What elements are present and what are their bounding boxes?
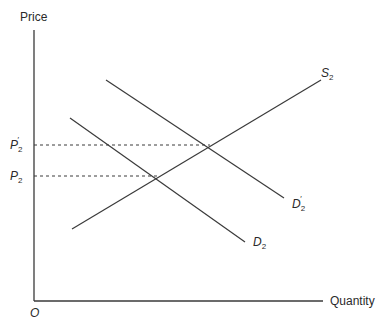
demand-curve-d2 <box>70 118 245 242</box>
curve-label-d2-prime: D2′ <box>292 194 306 213</box>
price-label-p2: P2 <box>10 169 23 185</box>
x-axis-label: Quantity <box>330 294 375 308</box>
supply-curve-s2 <box>72 80 321 229</box>
demand-curve-d2-prime <box>106 80 284 198</box>
origin-label: O <box>30 306 39 320</box>
supply-demand-diagram: Price Quantity O P2′ P2 S2 D2′ D2 <box>0 0 382 330</box>
price-label-p2-prime: P2′ <box>10 135 23 154</box>
y-axis-label: Price <box>20 10 48 24</box>
curve-label-s2: S2 <box>321 66 334 82</box>
curve-label-d2: D2 <box>253 235 267 251</box>
